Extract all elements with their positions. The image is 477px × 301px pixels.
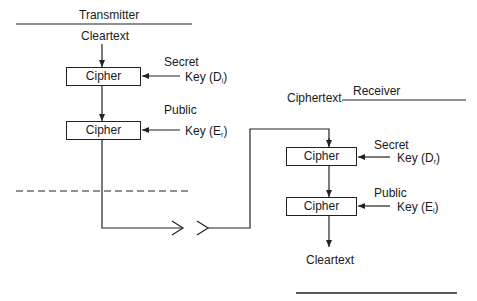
transmitter-cipher-2: Cipher: [66, 121, 141, 140]
transmitter-secret-label: Secret: [164, 55, 199, 69]
receiver-ciphertext-label: Ciphertext: [287, 91, 342, 105]
transmitter-title: Transmitter: [79, 8, 139, 22]
transmitter-public-key: Key (Er): [185, 124, 227, 142]
cipher-label: Cipher: [86, 69, 121, 83]
receiver-cleartext-label: Cleartext: [306, 253, 354, 267]
transmitter-secret-key: Key (Di): [185, 70, 227, 88]
receiver-cipher-2: Cipher: [286, 197, 357, 216]
cipher-label: Cipher: [304, 149, 339, 163]
cipher-label: Cipher: [86, 123, 121, 137]
receiver-title: Receiver: [353, 84, 400, 98]
cipher-label: Cipher: [304, 199, 339, 213]
transmitter-cleartext-label: Cleartext: [81, 29, 129, 43]
receiver-cipher-1: Cipher: [286, 147, 357, 166]
receiver-secret-label: Secret: [374, 138, 409, 152]
transmitter-public-label: Public: [164, 103, 197, 117]
receiver-public-label: Public: [374, 186, 407, 200]
receiver-secret-key: Key (Dr): [397, 151, 440, 169]
transmitter-cipher-1: Cipher: [66, 67, 141, 86]
receiver-public-key: Key (Ei): [397, 200, 439, 218]
